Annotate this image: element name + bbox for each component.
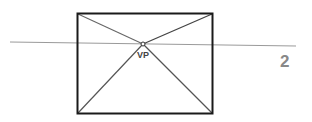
- diagonal-top-right: [143, 14, 212, 44]
- vanishing-point-marker: [141, 42, 145, 46]
- vanishing-point-label: VP: [137, 50, 149, 60]
- figure-number: 2: [280, 52, 289, 72]
- diagonal-bottom-right: [143, 44, 212, 113]
- horizon-line: [10, 42, 296, 46]
- perspective-diagram: [0, 0, 312, 122]
- diagonal-top-left: [78, 14, 143, 44]
- diagonal-bottom-left: [78, 44, 143, 113]
- picture-frame: [78, 14, 213, 114]
